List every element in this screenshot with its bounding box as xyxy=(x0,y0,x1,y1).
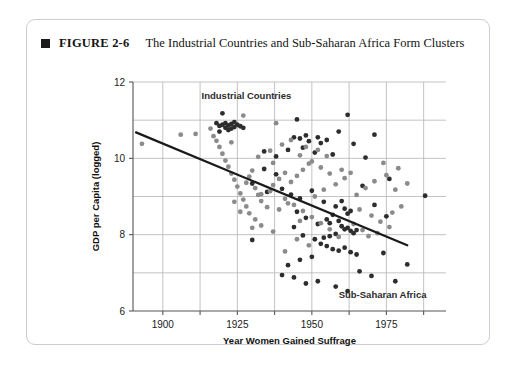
data-point xyxy=(298,153,303,158)
data-point xyxy=(193,132,198,137)
data-point xyxy=(289,138,294,143)
data-point xyxy=(244,204,249,209)
data-point xyxy=(372,179,377,184)
data-point xyxy=(283,170,288,175)
data-point xyxy=(333,284,338,289)
data-point xyxy=(321,199,326,204)
data-point xyxy=(220,111,225,116)
data-point xyxy=(241,113,246,118)
data-point xyxy=(256,154,261,159)
data-point xyxy=(298,136,303,141)
data-point xyxy=(309,215,314,220)
data-point xyxy=(363,186,368,191)
data-point xyxy=(265,205,270,210)
data-point xyxy=(309,254,314,259)
data-point xyxy=(369,213,374,218)
y-tick-label: 12 xyxy=(114,77,126,88)
cluster-label: Sub-Saharan Africa xyxy=(339,289,428,300)
data-point xyxy=(283,196,288,201)
data-point xyxy=(292,203,297,208)
data-point xyxy=(298,219,303,224)
data-point xyxy=(318,221,323,226)
data-point xyxy=(295,209,300,214)
data-point xyxy=(250,238,255,243)
data-point xyxy=(393,279,398,284)
data-point xyxy=(244,180,249,185)
data-point xyxy=(309,188,314,193)
data-point xyxy=(259,192,264,197)
data-point xyxy=(318,165,323,170)
data-point xyxy=(357,269,362,274)
data-point xyxy=(423,193,428,198)
data-point xyxy=(274,154,279,159)
data-point xyxy=(253,217,258,222)
data-point xyxy=(280,186,285,191)
scatter-plot: 6810121900192519501975Year Women Gained … xyxy=(27,20,491,346)
data-point xyxy=(348,170,353,175)
data-point xyxy=(235,184,240,189)
data-point xyxy=(304,144,309,149)
data-point xyxy=(214,138,219,143)
data-point xyxy=(289,180,294,185)
data-point xyxy=(298,257,303,262)
data-point xyxy=(250,168,255,173)
data-point xyxy=(312,194,317,199)
data-point xyxy=(387,225,392,230)
data-point xyxy=(336,248,341,253)
data-point xyxy=(223,158,228,163)
data-point xyxy=(226,164,231,169)
data-point xyxy=(351,141,356,146)
data-point xyxy=(304,215,309,220)
data-point xyxy=(336,235,341,240)
data-point xyxy=(295,173,300,178)
data-point xyxy=(324,138,329,143)
data-point xyxy=(262,167,267,172)
data-point xyxy=(333,182,338,187)
data-point xyxy=(381,251,386,256)
data-point xyxy=(253,186,258,191)
data-point xyxy=(381,161,386,166)
data-point xyxy=(229,140,234,145)
data-point xyxy=(286,263,291,268)
data-point xyxy=(327,171,332,176)
data-point xyxy=(304,281,309,286)
data-point xyxy=(247,211,252,216)
data-point xyxy=(324,244,329,249)
data-point xyxy=(238,191,243,196)
data-point xyxy=(232,199,237,204)
data-point xyxy=(304,133,309,138)
x-tick-label: 1925 xyxy=(226,319,249,330)
data-point xyxy=(286,148,291,153)
cluster-label: Industrial Countries xyxy=(202,90,292,101)
data-point xyxy=(357,207,362,212)
data-point xyxy=(384,214,389,219)
data-point xyxy=(327,221,332,226)
data-point xyxy=(306,243,311,248)
x-tick-label: 1950 xyxy=(301,319,324,330)
data-point xyxy=(387,177,392,182)
y-tick-label: 10 xyxy=(114,153,126,164)
data-point xyxy=(396,166,401,171)
plot-svg: 6810121900192519501975Year Women Gained … xyxy=(27,20,491,346)
data-point xyxy=(318,241,323,246)
data-point xyxy=(393,187,398,192)
data-point xyxy=(327,227,332,232)
data-point xyxy=(271,183,276,188)
data-point xyxy=(271,229,276,234)
data-point xyxy=(318,141,323,146)
x-axis-title: Year Women Gained Suffrage xyxy=(223,335,356,346)
data-point xyxy=(274,172,279,177)
data-point xyxy=(372,132,377,137)
figure-card: FIGURE 2-6 The Industrial Countries and … xyxy=(26,19,490,345)
data-point xyxy=(315,148,320,153)
data-point xyxy=(292,275,297,280)
data-point xyxy=(271,161,276,166)
data-point xyxy=(312,237,317,242)
data-point xyxy=(259,223,264,228)
data-point xyxy=(178,132,183,137)
data-point xyxy=(274,121,279,126)
y-tick-label: 6 xyxy=(119,306,125,317)
data-point xyxy=(292,225,297,230)
data-point xyxy=(339,167,344,172)
data-point xyxy=(301,233,306,238)
